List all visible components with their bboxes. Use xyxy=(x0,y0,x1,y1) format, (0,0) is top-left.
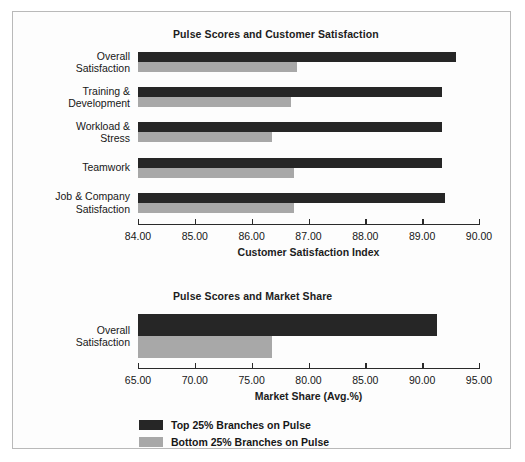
chart-legend: Top 25% Branches on Pulse Bottom 25% Bra… xyxy=(139,416,329,450)
bar-bottom25 xyxy=(138,203,294,213)
bar-top25 xyxy=(138,87,442,97)
bar-bottom25 xyxy=(138,132,272,142)
category-label: Training & Development xyxy=(20,85,130,110)
chart-panel-customer-satisfaction: Pulse Scores and Customer Satisfaction O… xyxy=(13,12,512,262)
x-axis-tick xyxy=(195,219,196,225)
category-label: Overall Satisfaction xyxy=(20,324,130,349)
x-axis-tick-label: 95.00 xyxy=(466,374,492,386)
bar-top25 xyxy=(138,122,442,132)
x-axis-title: Customer Satisfaction Index xyxy=(238,246,380,258)
chart-panel-market-share: Pulse Scores and Market Share Overall Sa… xyxy=(13,264,512,404)
x-axis-tick xyxy=(365,219,366,225)
chart-title-customer-satisfaction: Pulse Scores and Customer Satisfaction xyxy=(173,28,379,40)
bar-group xyxy=(138,158,479,178)
plot-area-market-share: Overall Satisfaction65.0070.0075.0080.00… xyxy=(138,308,479,368)
x-axis-tick-label: 85.00 xyxy=(182,230,208,242)
bar-bottom25 xyxy=(138,168,294,178)
bar-group xyxy=(138,122,479,142)
bar-group xyxy=(138,314,479,358)
x-axis-tick xyxy=(422,219,423,225)
legend-item-bottom25: Bottom 25% Branches on Pulse xyxy=(139,433,329,450)
x-axis-tick-label: 87.00 xyxy=(295,230,321,242)
category-label: Workload & Stress xyxy=(20,120,130,145)
x-axis-tick xyxy=(138,219,139,225)
legend-label-top25: Top 25% Branches on Pulse xyxy=(171,419,311,431)
x-axis-tick xyxy=(479,363,480,369)
x-axis-tick-label: 90.00 xyxy=(409,374,435,386)
x-axis-tick xyxy=(365,363,366,369)
x-axis-tick xyxy=(138,363,139,369)
bar-top25 xyxy=(138,193,445,203)
legend-swatch-icon-top25 xyxy=(139,420,163,430)
x-axis-tick-label: 84.00 xyxy=(125,230,151,242)
x-axis-tick-label: 86.00 xyxy=(239,230,265,242)
x-axis-tick xyxy=(309,363,310,369)
chart-title-market-share: Pulse Scores and Market Share xyxy=(173,290,332,302)
category-label: Teamwork xyxy=(20,161,130,174)
legend-item-top25: Top 25% Branches on Pulse xyxy=(139,416,329,433)
bar-group xyxy=(138,193,479,213)
plot-area-customer-satisfaction: Overall SatisfactionTraining & Developme… xyxy=(138,48,479,224)
chart-figure: Pulse Scores and Customer Satisfaction O… xyxy=(12,11,511,449)
category-label: Overall Satisfaction xyxy=(20,50,130,75)
x-axis-tick xyxy=(422,363,423,369)
x-axis-tick xyxy=(252,363,253,369)
x-axis-tick-label: 88.00 xyxy=(352,230,378,242)
bar-group xyxy=(138,87,479,107)
x-axis-tick-label: 85.00 xyxy=(352,374,378,386)
bar-top25 xyxy=(138,314,437,336)
legend-label-bottom25: Bottom 25% Branches on Pulse xyxy=(171,436,329,448)
category-label: Job & Company Satisfaction xyxy=(20,190,130,215)
x-axis-tick-label: 80.00 xyxy=(295,374,321,386)
bar-bottom25 xyxy=(138,336,272,358)
bar-bottom25 xyxy=(138,62,297,72)
x-axis-tick-label: 65.00 xyxy=(125,374,151,386)
bar-bottom25 xyxy=(138,97,291,107)
x-axis-tick-label: 70.00 xyxy=(182,374,208,386)
legend-swatch-icon-bottom25 xyxy=(139,437,163,447)
x-axis-tick xyxy=(252,219,253,225)
x-axis-tick xyxy=(479,219,480,225)
x-axis-tick xyxy=(309,219,310,225)
x-axis-title: Market Share (Avg.%) xyxy=(255,390,363,402)
bar-top25 xyxy=(138,52,456,62)
x-axis-tick xyxy=(195,363,196,369)
bar-top25 xyxy=(138,158,442,168)
x-axis-tick-label: 90.00 xyxy=(466,230,492,242)
x-axis-tick-label: 89.00 xyxy=(409,230,435,242)
x-axis-tick-label: 75.00 xyxy=(239,374,265,386)
bar-group xyxy=(138,52,479,72)
